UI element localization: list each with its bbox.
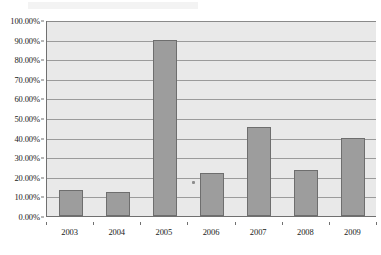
x-axis-tick-mark	[46, 222, 47, 225]
x-axis-tick-mark	[235, 222, 236, 225]
x-axis-tick-label: 2009	[344, 227, 361, 237]
x-axis-tick-label: 2008	[297, 227, 314, 237]
bar-2007	[247, 127, 271, 216]
x-axis-tick-mark	[376, 222, 377, 225]
y-axis-tick-mark	[41, 197, 44, 198]
y-axis-tick-label: 0.00%	[19, 212, 40, 222]
bars-layer	[47, 21, 376, 216]
y-axis-tick-mark	[41, 21, 44, 22]
y-axis-tick-mark	[41, 79, 44, 80]
bar-2008	[294, 170, 318, 216]
y-axis-tick-mark	[41, 99, 44, 100]
bar-2009	[341, 138, 365, 216]
x-axis: 2003200420052006200720082009	[46, 222, 376, 238]
bar-2005	[153, 40, 177, 216]
plot-area	[46, 21, 376, 217]
x-axis-tick-label: 2007	[250, 227, 267, 237]
scan-artifact-top	[28, 2, 198, 9]
x-axis-tick-label: 2006	[203, 227, 220, 237]
y-axis-tick-label: 80.00%	[14, 55, 40, 65]
y-axis-tick-mark	[41, 217, 44, 218]
y-axis-tick-mark	[41, 60, 44, 61]
y-axis-tick-label: 90.00%	[14, 36, 40, 46]
bar-2006	[200, 173, 224, 216]
x-axis-tick-mark	[282, 222, 283, 225]
y-axis-tick-label: 10.00%	[14, 192, 40, 202]
y-axis-tick-label: 50.00%	[14, 114, 40, 124]
scan-artifact-speck	[192, 181, 195, 184]
y-axis-tick-label: 40.00%	[14, 134, 40, 144]
x-axis-tick-mark	[187, 222, 188, 225]
bar-2004	[106, 192, 130, 216]
x-axis-tick-mark	[93, 222, 94, 225]
x-axis-tick-label: 2004	[108, 227, 125, 237]
x-axis-tick-label: 2003	[61, 227, 78, 237]
y-axis-tick-mark	[41, 138, 44, 139]
x-axis-tick-mark	[140, 222, 141, 225]
y-axis-tick-mark	[41, 40, 44, 41]
bar-chart: 0.00%10.00%20.00%30.00%40.00%50.00%60.00…	[0, 0, 381, 255]
y-axis-tick-mark	[41, 158, 44, 159]
x-axis-tick-mark	[329, 222, 330, 225]
y-axis-tick-label: 60.00%	[14, 94, 40, 104]
y-axis-tick-label: 30.00%	[14, 153, 40, 163]
y-axis-tick-mark	[41, 119, 44, 120]
y-axis-tick-label: 100.00%	[10, 16, 40, 26]
y-axis-tick-label: 70.00%	[14, 75, 40, 85]
y-axis-tick-mark	[41, 177, 44, 178]
x-axis-tick-label: 2005	[156, 227, 173, 237]
y-axis-tick-label: 20.00%	[14, 173, 40, 183]
bar-2003	[59, 190, 83, 216]
y-axis: 0.00%10.00%20.00%30.00%40.00%50.00%60.00…	[0, 21, 44, 217]
